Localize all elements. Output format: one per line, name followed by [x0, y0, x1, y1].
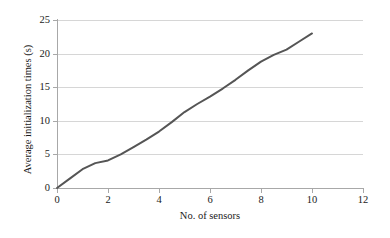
- line-chart: 25 20 15 10 5 0 0 2 4 6 8 10 12 Average …: [0, 0, 390, 238]
- series-line-average-initialization-times: [57, 33, 312, 188]
- series-layer: [0, 0, 390, 238]
